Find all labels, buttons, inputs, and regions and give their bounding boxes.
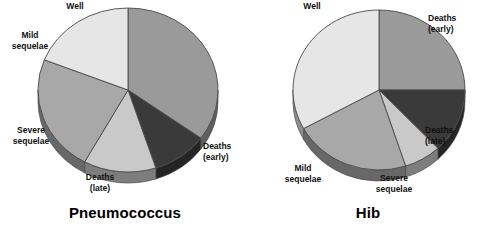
label-mild-line2: sequelae (273, 174, 333, 185)
label-deaths-early-line2: (early) (428, 24, 488, 35)
label-deaths-late-pneumococcus: Deaths (late) (70, 172, 130, 193)
label-mild-line2: sequelae (0, 41, 60, 52)
chart-title-pneumococcus: Pneumococcus (0, 204, 250, 221)
label-deaths-late-line1: Deaths (70, 172, 130, 183)
label-severe-line1: Severe (363, 173, 425, 184)
label-severe-line2: sequelae (363, 184, 425, 195)
label-severe-line1: Severe (0, 125, 62, 136)
label-well-pneumococcus: Well (40, 1, 110, 12)
label-mild-line1: Mild (0, 30, 60, 41)
label-deaths-late-line2: (late) (425, 136, 485, 147)
label-deaths-late-line2: (late) (70, 183, 130, 194)
pie-chart-hib: Well Mild sequelae Severe sequelae Death… (243, 0, 493, 240)
label-deaths-early-line1: Deaths (428, 13, 488, 24)
label-severe-line2: sequelae (0, 136, 62, 147)
label-severe-sequelae-hib: Severe sequelae (363, 173, 425, 194)
label-well-hib: Well (287, 1, 337, 12)
chart-title-hib: Hib (243, 204, 493, 221)
label-mild-line1: Mild (273, 163, 333, 174)
hib-slices[interactable] (293, 10, 465, 181)
label-mild-sequelae-hib: Mild sequelae (273, 163, 333, 184)
label-deaths-early-hib: Deaths (early) (428, 13, 488, 34)
pneumococcus-slices[interactable] (38, 8, 218, 183)
pie-top-faces[interactable] (38, 8, 218, 172)
figure-canvas: Well Mild sequelae Severe sequelae Death… (0, 0, 493, 240)
label-well-line1: Well (40, 1, 110, 12)
label-severe-sequelae-pneumococcus: Severe sequelae (0, 125, 62, 146)
label-deaths-late-hib: Deaths (late) (425, 125, 485, 146)
pie-top-faces[interactable] (293, 10, 465, 170)
label-well-line1: Well (287, 1, 337, 12)
pie-chart-pneumococcus: Well Mild sequelae Severe sequelae Death… (0, 0, 250, 240)
label-deaths-late-line1: Deaths (425, 125, 485, 136)
label-mild-sequelae-pneumococcus: Mild sequelae (0, 30, 60, 51)
